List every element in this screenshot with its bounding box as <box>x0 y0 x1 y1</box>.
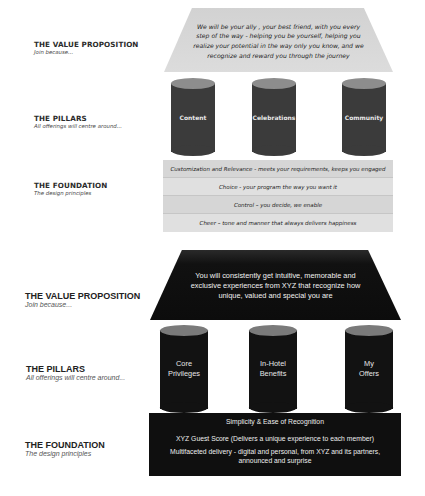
pillar-my-offers: My Offers <box>345 325 393 413</box>
label-title: THE VALUE PROPOSITION <box>34 40 138 49</box>
pillar-in-hotel-benefits: In-Hotel Benefits <box>249 325 297 413</box>
pillar-label-line: In-Hotel <box>249 359 297 369</box>
pillar-label-line: Benefits <box>249 369 297 379</box>
pillar-top <box>252 78 296 89</box>
foundation-row: Cheer – tone and manner that always deli… <box>163 214 393 232</box>
pillar-label: Celebrations <box>252 114 296 121</box>
foundation-row: Multifaceted delivery - digital and pers… <box>149 448 401 465</box>
label-subtitle: All offerings will centre around... <box>34 123 122 129</box>
pillar-top <box>342 78 386 89</box>
pillar-content: Content <box>171 78 215 156</box>
label-title: THE FOUNDATION <box>25 440 105 450</box>
pillar-top <box>171 78 215 89</box>
pillar-core-privileges: Core Privileges <box>160 325 208 413</box>
label-subtitle: Join because... <box>34 49 138 55</box>
roof-text: You will consistently get intuitive, mem… <box>183 269 368 301</box>
pillar-top <box>249 325 297 336</box>
foundation-row: Control – you decide, we enable <box>163 196 393 214</box>
value-proposition-roof: You will consistently get intuitive, mem… <box>150 250 401 320</box>
pillar-label-line: Core <box>160 359 208 369</box>
label-title: THE FOUNDATION <box>34 181 107 190</box>
pillar-community: Community <box>342 78 386 156</box>
label-pillars: THE PILLARS All offerings will centre ar… <box>26 364 125 381</box>
label-subtitle: Join because... <box>25 301 140 308</box>
label-title: THE PILLARS <box>34 114 122 123</box>
foundation-row: Customization and Relevance - meets your… <box>163 160 393 178</box>
foundation-row: Choice - your program the way you want i… <box>163 178 393 196</box>
value-proposition-roof: We will be your ally , your best friend,… <box>164 8 393 72</box>
foundation-row: XYZ Guest Score (Delivers a unique exper… <box>149 435 401 442</box>
label-pillars: THE PILLARS All offerings will centre ar… <box>34 114 122 129</box>
pillar-label: My Offers <box>345 359 393 379</box>
foundation-block: Simplicity & Ease of Recognition XYZ Gue… <box>149 413 401 476</box>
pillar-celebrations: Celebrations <box>252 78 296 156</box>
pillar-label-line: Privileges <box>160 369 208 379</box>
label-foundation: THE FOUNDATION The design principles <box>34 181 107 196</box>
foundation-row: Simplicity & Ease of Recognition <box>149 418 401 425</box>
foundation-block: Customization and Relevance - meets your… <box>163 160 393 232</box>
pillar-label-line: My <box>345 359 393 369</box>
pillar-label: Community <box>342 114 386 121</box>
roof-text: We will be your ally , your best friend,… <box>190 20 368 60</box>
pillar-label: In-Hotel Benefits <box>249 359 297 379</box>
pillar-label: Core Privileges <box>160 359 208 379</box>
label-subtitle: The design principles <box>34 190 107 196</box>
label-title: THE PILLARS <box>26 364 125 374</box>
pillar-top <box>345 325 393 336</box>
pillar-label-line: Offers <box>345 369 393 379</box>
label-subtitle: The design principles <box>25 450 105 457</box>
label-subtitle: All offerings will centre around... <box>26 374 125 381</box>
label-title: THE VALUE PROPOSITION <box>25 291 140 301</box>
pillar-label: Content <box>171 114 215 121</box>
label-value-proposition: THE VALUE PROPOSITION Join because... <box>25 291 140 308</box>
label-foundation: THE FOUNDATION The design principles <box>25 440 105 457</box>
pillar-top <box>160 325 208 336</box>
label-value-proposition: THE VALUE PROPOSITION Join because... <box>34 40 138 55</box>
